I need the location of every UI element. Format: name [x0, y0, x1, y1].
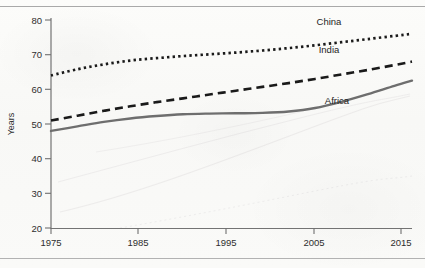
series-line-africa	[51, 81, 412, 131]
x-tick-label: 1995	[215, 237, 236, 248]
series-line-india	[51, 62, 412, 121]
y-tick-label: 50	[31, 119, 42, 130]
x-tick-label: 2005	[303, 237, 324, 248]
y-tick-label: 40	[31, 153, 42, 164]
series-line-china	[51, 34, 412, 76]
series-label-india: India	[319, 44, 340, 55]
series-label-africa: Africa	[325, 95, 350, 106]
series-label-china: China	[317, 16, 343, 27]
chart-figure: 80 70 60 50 40 30 20 1975 1985 1995 2005…	[0, 0, 425, 268]
line-chart: 80 70 60 50 40 30 20 1975 1985 1995 2005…	[0, 0, 425, 268]
series-annotations: China India Africa	[317, 16, 350, 106]
y-axis-title: Years	[6, 112, 16, 135]
y-tick-label: 70	[31, 49, 42, 60]
y-tick-label: 20	[31, 223, 42, 234]
x-tick-label: 2015	[390, 237, 411, 248]
series-group	[51, 34, 412, 131]
axis-spines	[51, 18, 412, 229]
y-tick-label: 80	[31, 15, 42, 26]
y-axis-ticks	[45, 20, 51, 228]
y-tick-label: 60	[31, 84, 42, 95]
y-axis-tick-labels: 80 70 60 50 40 30 20	[31, 15, 42, 234]
x-tick-label: 1975	[40, 237, 61, 248]
x-axis-tick-labels: 1975 1985 1995 2005 2015	[40, 237, 411, 248]
y-tick-label: 30	[31, 188, 42, 199]
x-tick-label: 1985	[127, 237, 148, 248]
